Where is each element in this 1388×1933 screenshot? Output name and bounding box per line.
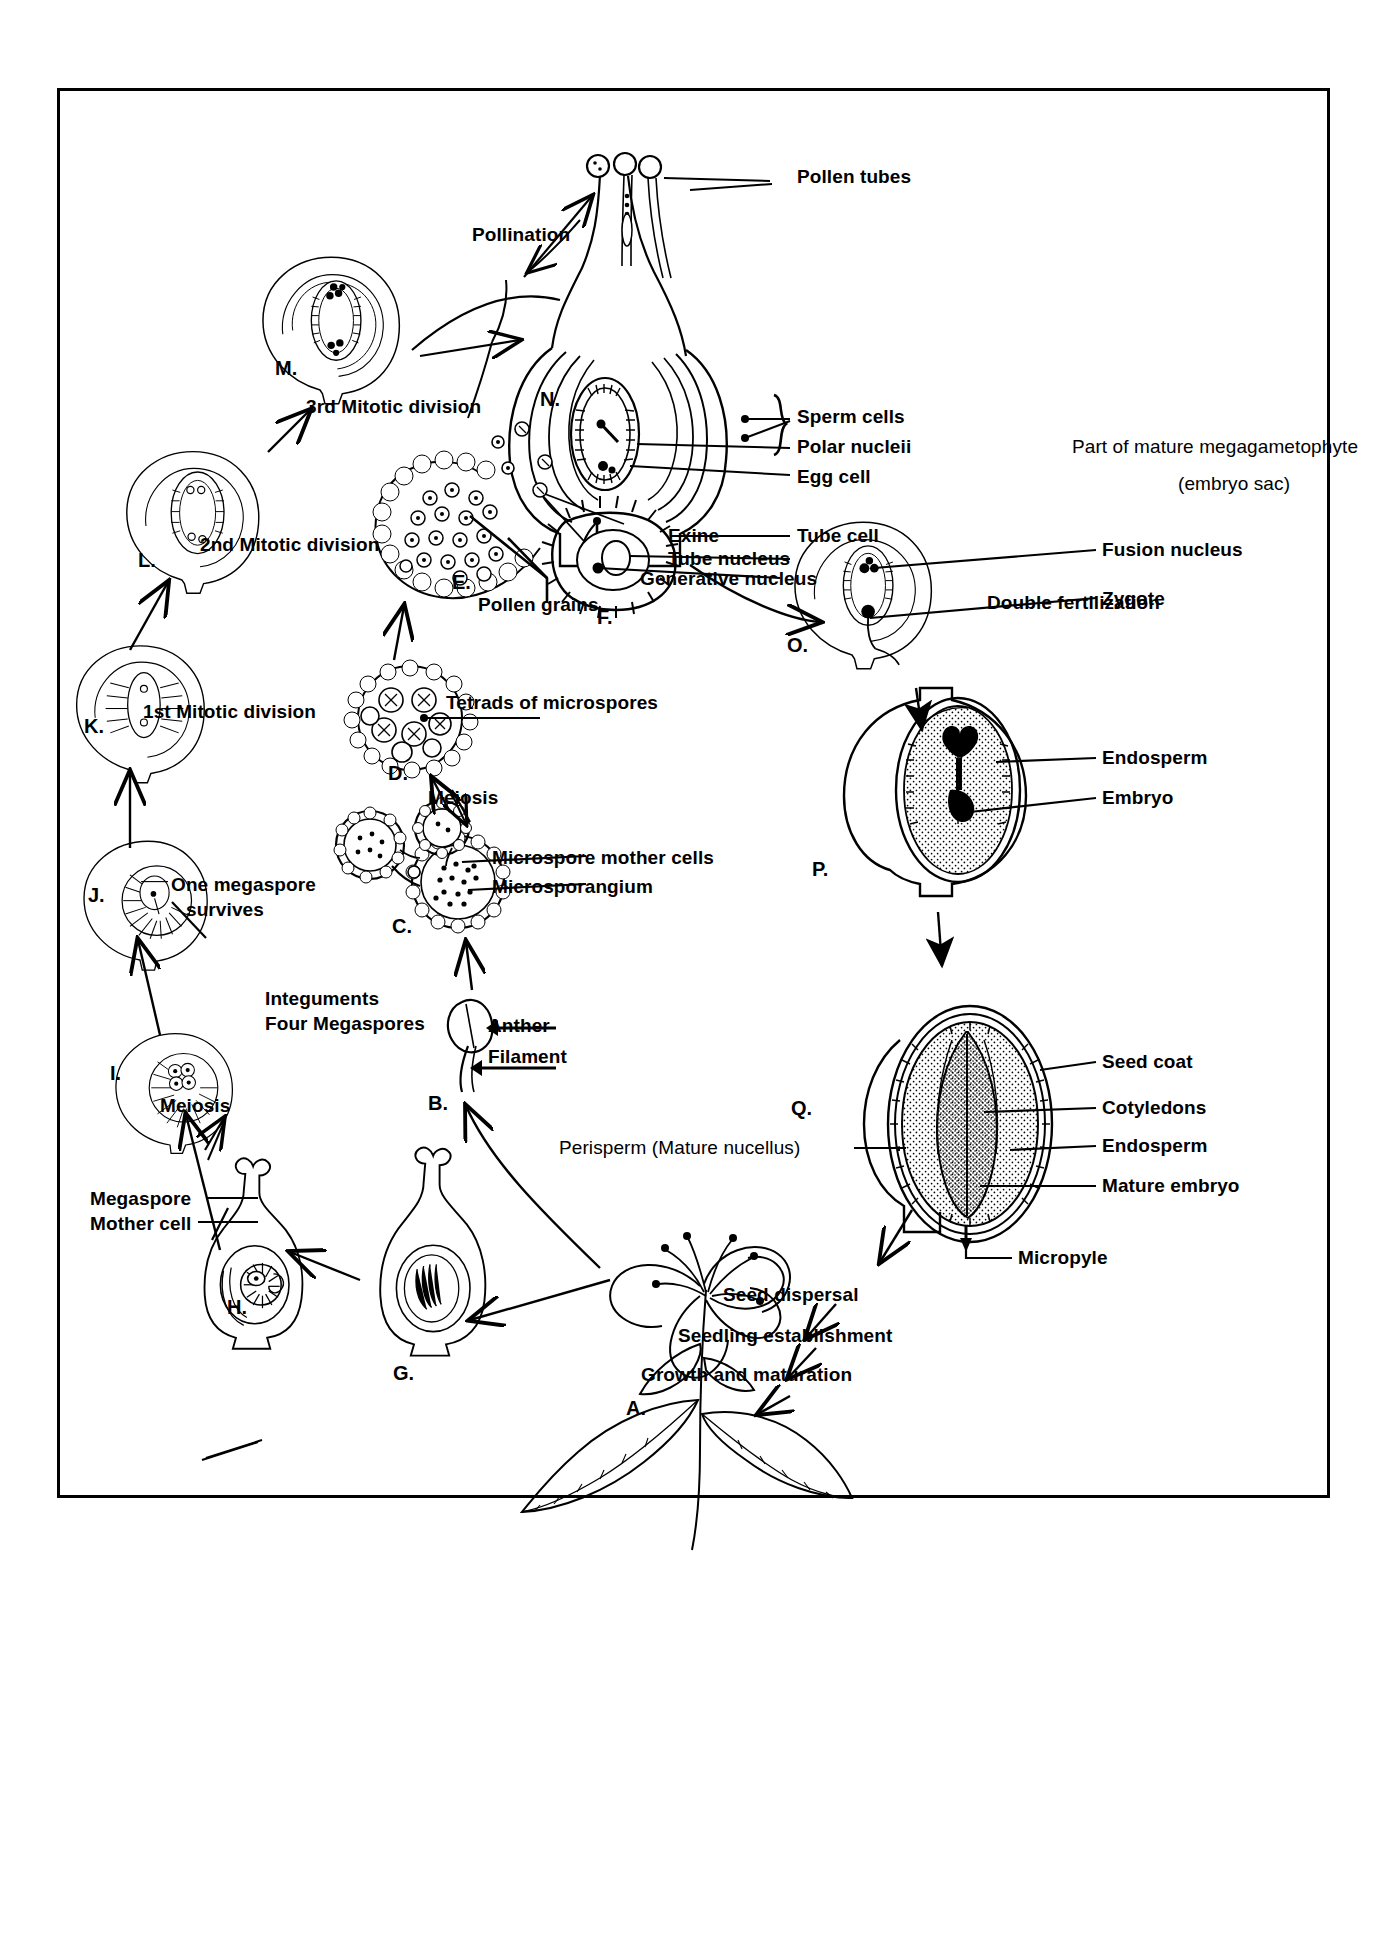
label-meiosis-left: Meiosis [160,1095,230,1117]
label-embryo-sac: (embryo sac) [1178,473,1290,495]
label-pollen-tubes: Pollen tubes [797,166,911,188]
label-megaspore: Megaspore [90,1188,191,1210]
stage-letter-f: F. [597,606,613,629]
stage-letter-g: G. [393,1362,414,1385]
label-micropyle: Micropyle [1018,1247,1108,1269]
label-pollen-grains: Pollen grains [478,594,599,616]
stage-letter-d: D. [388,762,408,785]
stage-letter-p: P. [812,858,828,881]
stage-letter-b: B. [428,1092,448,1115]
label-tube-cell: Tube cell [797,525,879,547]
stage-letter-j: J. [88,884,105,907]
label-embryo-p: Embryo [1102,787,1173,809]
label-seed-coat: Seed coat [1102,1051,1193,1073]
label-four-megaspores: Four Megaspores [265,1013,425,1035]
label-cotyledons: Cotyledons [1102,1097,1206,1119]
label-microspore-mother-cells: Microspore mother cells [492,847,714,869]
stage-letter-h: H. [227,1296,247,1319]
stage-letter-o: O. [787,634,808,657]
stage-letter-e: E. [452,571,471,594]
label-3rd-mitotic-division: 3rd Mitotic division [306,396,481,418]
stage-letter-c: C. [392,915,412,938]
stage-letter-i: I. [110,1062,121,1085]
label-pollination: Pollination [472,224,570,246]
stage-letter-k: K. [84,715,104,738]
label-filament: Filament [488,1046,567,1068]
label-microsporangium: Microsporangium [492,876,653,898]
label-endosperm-q: Endosperm [1102,1135,1207,1157]
label-2nd-mitotic-division: 2nd Mitotic division [200,534,379,556]
stage-letter-n: N. [540,388,560,411]
label-mother-cell: Mother cell [90,1213,191,1235]
label-1st-mitotic-division: 1st Mitotic division [143,701,316,723]
stage-letter-a: A. [626,1397,646,1420]
label-polar-nucleii: Polar nucleii [797,436,911,458]
label-exine: Exine [668,525,719,547]
label-meiosis-center: Meiosis [428,787,498,809]
label-generative-nucleus: Generative nucleus [640,568,817,590]
label-growth-and-maturation: Growth and maturation [641,1364,852,1386]
label-integuments: Integuments [265,988,379,1010]
label-sperm-cells: Sperm cells [797,406,905,428]
diagram-page: Pollen tubes Pollination Sperm cells Pol… [0,0,1388,1933]
label-seedling-establishment: Seedling establishment [678,1325,892,1347]
label-endosperm-p: Endosperm [1102,747,1207,769]
label-perisperm: Perisperm (Mature nucellus) [559,1137,800,1159]
stage-letter-m: M. [275,357,297,380]
label-zygote: Zygote [1102,588,1165,610]
label-mature-embryo: Mature embryo [1102,1175,1240,1197]
label-part-of-mature-megagametophyte: Part of mature megagametophyte [1072,436,1358,458]
stage-letter-l: L. [138,549,156,572]
label-tetrads-of-microspores: Tetrads of microspores [446,692,658,714]
label-one-megaspore: One megaspore [171,874,316,896]
stage-letter-q: Q. [791,1097,812,1120]
label-survives: survives [186,899,264,921]
label-egg-cell: Egg cell [797,466,871,488]
label-anther: Anther [488,1015,550,1037]
label-seed-dispersal: Seed dispersal [723,1284,859,1306]
label-fusion-nucleus: Fusion nucleus [1102,539,1243,561]
